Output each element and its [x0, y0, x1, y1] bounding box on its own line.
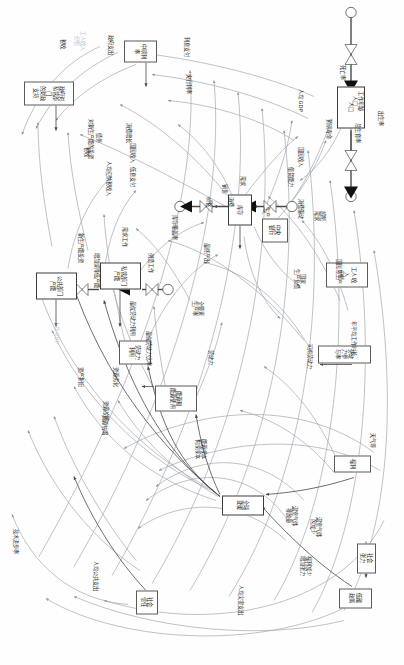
diagram-label-a14: 最优劳动力利用 [130, 300, 136, 336]
diagram-label-a39: 人均 GDP [298, 88, 304, 111]
diagram-label-a50: 人均灾害支出 [238, 584, 244, 615]
diagram-label-a49: 消费 [228, 196, 234, 206]
diagram-node-n1[interactable]: 社会 张力 [357, 543, 376, 573]
diagram-label-a33: 国民收入 [130, 142, 136, 162]
diagram-label-a3: 温室气体 排放量 [286, 505, 298, 525]
diagram-label-a24: 新生产能投资 [78, 232, 84, 263]
diagram-viewport: 社会 张力低碳政策社会 信任福利全球变暖能源和 能源使用劳动力参与率劳动力 利用… [0, 0, 404, 665]
diagram-label-a31: 人均应纳税收入 [106, 160, 112, 196]
diagram-label-a41: 出生率 [378, 110, 384, 125]
diagram-node-n11[interactable]: 私营部门 产能 [100, 262, 141, 289]
diagram-label-a4: 能源成本 构成成本 [195, 438, 207, 458]
diagram-label-a23: 消费驱动 [298, 198, 304, 218]
diagram-label-a20: 总生育率 [355, 122, 361, 142]
diagram-label-a54: 创造工作 [148, 252, 154, 272]
diagram-label-a5: 天气等 [370, 432, 376, 447]
diagram-label-a30: 低息支付 [130, 166, 136, 186]
diagram-node-n9[interactable]: 工人收入 份额 [326, 262, 368, 287]
diagram-node-n15[interactable]: 中期利率 [124, 40, 157, 62]
diagram-label-a36: 消费增长 [126, 122, 132, 142]
diagram-label-a16: 人均 GDP [54, 320, 60, 343]
diagram-label-a47: 国民总生产 [336, 258, 342, 284]
diagram-label-a19: 工作年龄 人口 [352, 90, 364, 110]
diagram-label-a28: 需求 [240, 175, 246, 185]
diagram-label-a48: 生产 [264, 206, 270, 216]
diagram-node-n5[interactable]: 全球变暖 [222, 495, 264, 515]
diagram-label-a38: 预期寿命 [326, 118, 332, 138]
diagram-node-n16[interactable]: 政府对私营部门 的财政支持 [24, 81, 74, 105]
diagram-label-a25: 库存覆盖率 [172, 214, 178, 240]
diagram-node-n2[interactable]: 低碳政策 [339, 588, 372, 608]
diagram-label-a51: 资源劣化 [113, 366, 119, 386]
diagram-label-a53: 资源枯竭 [102, 414, 108, 434]
diagram-node-n12[interactable]: 中央 银行 [262, 218, 288, 242]
diagram-label-a46: 工人收入 份额 [74, 30, 86, 50]
diagram-label-a15: 国家 生产负债 [294, 268, 306, 288]
diagram-label-a2: 温室气体 的减少 [310, 516, 322, 536]
diagram-label-a13: 全要素 生产率 [192, 300, 204, 315]
diagram-node-n4[interactable]: 福利 [334, 455, 371, 472]
causal-loop-diagram[interactable]: 社会 张力低碳政策社会 信任福利全球变暖能源和 能源使用劳动力参与率劳动力 利用… [0, 0, 404, 665]
diagram-label-a44: 政府支出 [108, 34, 114, 54]
diagram-label-a22: 超额 需求 [314, 210, 326, 220]
diagram-node-n3[interactable]: 社会 信任 [136, 590, 158, 614]
diagram-label-a35: 债务 [96, 132, 102, 142]
diagram-node-n7[interactable]: 劳动力参与率 [318, 345, 371, 363]
diagram-label-a18: 增加或降低产能 [94, 252, 100, 288]
diagram-label-a29: 借贷能力 [288, 166, 294, 186]
diagram-label-a7: 劳动力 [208, 349, 214, 364]
diagram-node-n10[interactable]: 公共部门 产能 [36, 272, 77, 299]
diagram-label-a32: 国民收入 [298, 146, 304, 166]
diagram-label-a9: 技术进步率 [13, 528, 19, 554]
diagram-label-a26: 价格 [206, 196, 212, 206]
diagram-label-a8: 人均公共支出 [93, 560, 99, 591]
diagram-label-a21: 需求工作 [122, 226, 128, 246]
diagram-label-a52: 最优劳动力比率 [146, 330, 152, 366]
diagram-label-a43: 利息支付 [184, 36, 190, 56]
diagram-label-a40: 死亡率 [340, 64, 346, 79]
diagram-label-a45: 税收 [60, 38, 66, 48]
diagram-label-a1: 福利减少 增加张力 [300, 555, 312, 575]
diagram-node-n6[interactable]: 能源和 能源使用 [155, 385, 197, 411]
diagram-label-a42: 央行利率 [186, 73, 192, 93]
diagram-label-a6: 可用劳动力 [307, 343, 313, 369]
diagram-label-a12: 年平均工作时长 [351, 320, 357, 356]
diagram-label-a27: 销售 [222, 183, 228, 193]
diagram-label-a11: 资产折旧 [78, 366, 84, 386]
diagram-label-a37: 对新生产能的投资 [88, 118, 94, 159]
diagram-label-a17: 最终产出 [204, 242, 210, 262]
